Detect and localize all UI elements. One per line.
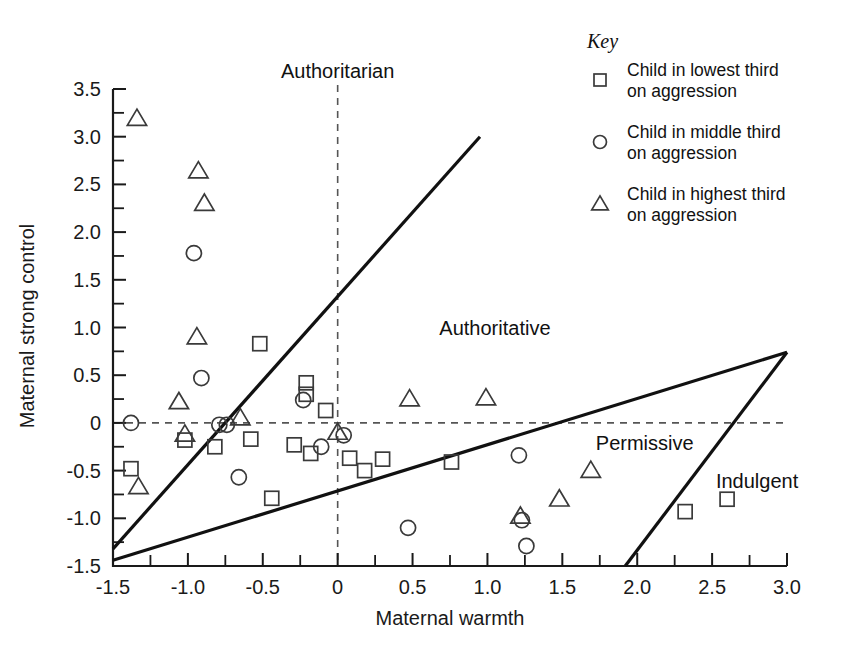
y-tick-label: 2.5	[73, 173, 101, 195]
x-tick-label: 0	[332, 576, 343, 598]
key-entry-line2: on aggression	[627, 205, 737, 225]
y-tick-label: 3.0	[73, 126, 101, 148]
key-entry-line1: Child in middle third	[627, 122, 781, 142]
y-tick-label: -1.5	[67, 555, 101, 577]
region-label-indulgent: Indulgent	[716, 470, 799, 492]
x-tick-label: 1.5	[548, 576, 576, 598]
y-tick-label: 1.0	[73, 317, 101, 339]
y-tick-label: 0	[90, 412, 101, 434]
x-tick-label: 2.5	[698, 576, 726, 598]
y-tick-label: 0.5	[73, 364, 101, 386]
y-axis-title: Maternal strong control	[16, 224, 38, 429]
x-tick-label: 3.0	[773, 576, 801, 598]
parenting-styles-scatter-figure: -1.5-1.0-0.500.51.01.52.02.53.03.5-1.5-1…	[0, 0, 867, 661]
region-label-authoritative: Authoritative	[439, 317, 550, 339]
x-tick-label: 0.5	[399, 576, 427, 598]
key-entry-line2: on aggression	[627, 143, 737, 163]
y-tick-label: 2.0	[73, 221, 101, 243]
x-axis-title: Maternal warmth	[376, 607, 525, 629]
y-tick-label: 3.5	[73, 78, 101, 100]
key-title: Key	[586, 30, 618, 53]
key-entry-line1: Child in highest third	[627, 184, 786, 204]
y-tick-label: -0.5	[67, 460, 101, 482]
region-label-permissive: Permissive	[596, 432, 694, 454]
x-tick-label: -0.5	[246, 576, 280, 598]
y-tick-label: 1.5	[73, 269, 101, 291]
chart-canvas: -1.5-1.0-0.500.51.01.52.02.53.03.5-1.5-1…	[0, 0, 867, 661]
x-tick-label: 2.0	[623, 576, 651, 598]
x-tick-label: -1.5	[96, 576, 130, 598]
key-entry-line1: Child in lowest third	[627, 60, 779, 80]
x-tick-label: -1.0	[171, 576, 205, 598]
x-tick-label: 1.0	[474, 576, 502, 598]
key-entry-line2: on aggression	[627, 81, 737, 101]
y-tick-label: -1.0	[67, 507, 101, 529]
region-label-authoritarian: Authoritarian	[281, 60, 394, 82]
